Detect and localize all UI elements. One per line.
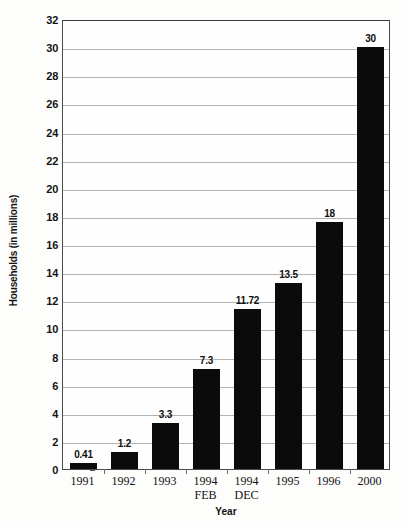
bar-value-label: 7.3 <box>200 355 213 366</box>
bar-chart: Households (in millions) 024681012141618… <box>0 0 407 527</box>
bar-group[interactable]: 30 <box>357 21 384 469</box>
y-axis-title: Households (in millions) <box>8 166 19 336</box>
y-axis-tick-labels: 02468101214161820222426283032 <box>28 20 58 470</box>
y-axis-tick-label: 2 <box>32 436 58 448</box>
x-axis-category-label-secondary: FEB <box>185 488 226 502</box>
x-axis-category-label-primary: 1995 <box>276 474 300 488</box>
bar-value-label: 3.3 <box>159 409 172 420</box>
x-axis-tick-labels: 1991199219931994FEB1994DEC199519962000 <box>62 474 390 510</box>
x-axis-category-label: 1994DEC <box>226 474 267 502</box>
y-axis-tick-label: 14 <box>32 267 58 279</box>
bar-group[interactable]: 18 <box>316 21 343 469</box>
bar-group[interactable]: 0.41 <box>70 21 97 469</box>
bar-value-label: 18 <box>324 208 335 219</box>
x-axis-category-label-primary: 1991 <box>71 474 95 488</box>
y-axis-tick-label: 8 <box>32 352 58 364</box>
x-axis-category-label: 1992 <box>103 474 144 488</box>
bar[interactable] <box>111 452 138 469</box>
bar-group[interactable]: 3.3 <box>152 21 179 469</box>
y-axis-tick-label: 26 <box>32 98 58 110</box>
y-axis-tick-label: 32 <box>32 14 58 26</box>
x-axis-category-label: 1993 <box>144 474 185 488</box>
y-axis-tick-label: 12 <box>32 295 58 307</box>
y-axis-tick-label: 10 <box>32 323 58 335</box>
x-axis-category-label-primary: 1992 <box>112 474 136 488</box>
bar[interactable] <box>193 369 220 469</box>
bar-group[interactable]: 13.5 <box>275 21 302 469</box>
y-axis-tick-mark <box>90 470 95 471</box>
bar-value-label: 1.2 <box>118 438 131 449</box>
bar[interactable] <box>234 309 261 469</box>
bar-value-label: 13.5 <box>279 269 298 280</box>
bar[interactable] <box>316 222 343 470</box>
y-axis-tick-label: 28 <box>32 70 58 82</box>
x-axis-category-label-primary: 1994 <box>194 474 218 488</box>
bar-value-label: 0.41 <box>74 449 93 460</box>
x-axis-category-label-primary: 1994 <box>235 474 259 488</box>
x-axis-category-label: 2000 <box>349 474 390 488</box>
bar-group[interactable]: 1.2 <box>111 21 138 469</box>
bar[interactable] <box>275 283 302 469</box>
bar[interactable] <box>70 463 97 469</box>
y-axis-tick-label: 30 <box>32 42 58 54</box>
x-axis-category-label-secondary: DEC <box>226 488 267 502</box>
x-axis-category-label-primary: 1996 <box>317 474 341 488</box>
x-axis-category-label-primary: 2000 <box>358 474 382 488</box>
y-axis-tick-label: 4 <box>32 408 58 420</box>
y-axis-tick-label: 6 <box>32 380 58 392</box>
bar[interactable] <box>152 423 179 469</box>
y-axis-tick-label: 22 <box>32 155 58 167</box>
x-axis-category-label: 1995 <box>267 474 308 488</box>
x-axis-title: Year <box>62 506 390 517</box>
plot-area: 0.411.23.37.311.7213.51830 <box>62 20 390 470</box>
bar-value-label: 30 <box>365 33 376 44</box>
bar-group[interactable]: 11.72 <box>234 21 261 469</box>
bar-value-label: 11.72 <box>236 295 259 306</box>
x-axis-category-label: 1996 <box>308 474 349 488</box>
y-axis-tick-label: 20 <box>32 183 58 195</box>
y-axis-tick-label: 18 <box>32 211 58 223</box>
y-axis-tick-label: 0 <box>32 464 58 476</box>
x-axis-category-label: 1991 <box>62 474 103 488</box>
bar[interactable] <box>357 47 384 469</box>
bar-group[interactable]: 7.3 <box>193 21 220 469</box>
x-axis-category-label-primary: 1993 <box>153 474 177 488</box>
x-axis-category-label: 1994FEB <box>185 474 226 502</box>
y-axis-tick-label: 16 <box>32 239 58 251</box>
y-axis-tick-label: 24 <box>32 127 58 139</box>
